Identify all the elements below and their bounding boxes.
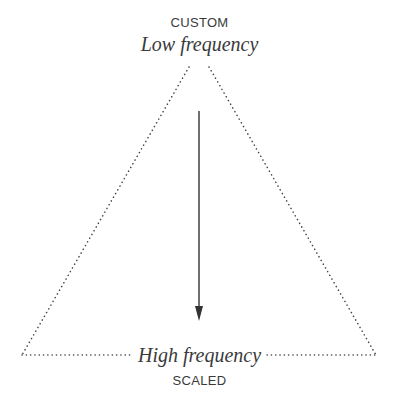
bottom-label-wrap: High frequency [0,344,399,367]
top-category-label: CUSTOM [0,15,399,30]
triangle-outline [0,0,399,403]
low-frequency-label: Low frequency [0,33,399,56]
right-dotted-edge [209,67,376,355]
left-dotted-edge [22,67,189,355]
arrow-down-icon [195,306,203,321]
high-frequency-label: High frequency [133,344,266,367]
frequency-triangle-diagram: CUSTOM Low frequency High frequency SCAL… [0,0,399,403]
bottom-category-label: SCALED [0,373,399,388]
